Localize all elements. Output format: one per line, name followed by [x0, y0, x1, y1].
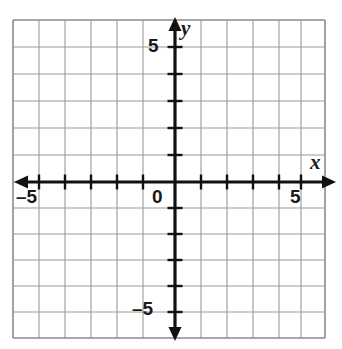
- x-axis-name-label: x: [310, 152, 321, 173]
- x-axis-tick-label-positive-five: 5: [290, 187, 301, 206]
- y-axis-tick-label-positive-five: 5: [148, 36, 159, 55]
- coordinate-grid-svg: [0, 0, 342, 349]
- x-axis-tick-label-negative-five: –5: [16, 187, 37, 206]
- origin-label: 0: [152, 187, 163, 206]
- y-axis-name-label: y: [181, 18, 190, 39]
- coordinate-plane-graph: –5 5 0 5 –5 x y: [0, 0, 342, 349]
- y-axis-line: [169, 17, 182, 341]
- y-axis-tick-label-negative-five: –5: [132, 299, 153, 318]
